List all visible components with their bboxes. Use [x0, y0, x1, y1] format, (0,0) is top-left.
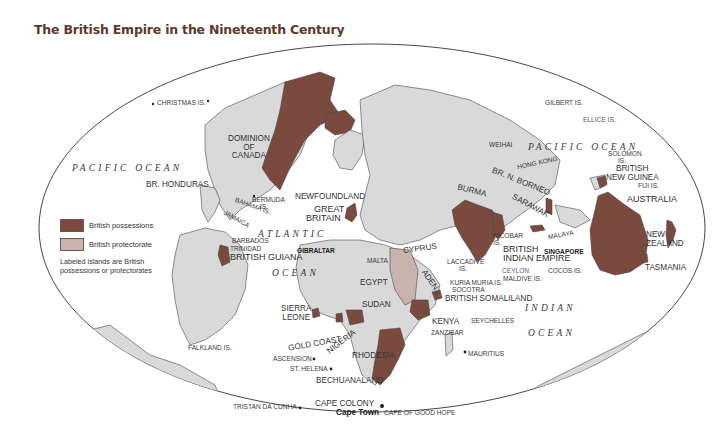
- label-canada: DOMINION OF CANADA: [228, 135, 270, 161]
- label-sierra-leone: SIERRA LEONE: [281, 305, 311, 322]
- label-maldive-is: MALDIVE IS.: [503, 276, 542, 283]
- label-gilbert-is: GILBERT IS.: [545, 100, 583, 107]
- label-cocos-is: COCOS IS.: [548, 268, 582, 275]
- label-falkland-is: FALKLAND IS.: [188, 345, 232, 352]
- label-great-britain-line2: BRITAIN: [306, 214, 344, 223]
- legend-note: Labeled islands are British possessions …: [60, 257, 180, 276]
- label-cape-of-good-hope: CAPE OF GOOD HOPE: [384, 410, 455, 417]
- label-christmas-is: CHRISTMAS IS.: [157, 100, 206, 107]
- label-british-somaliland: BRITISH SOMALILAND: [445, 295, 532, 304]
- label-british-ng-line2: NEW GUINEA: [606, 174, 659, 183]
- legend-item-protectorate: British protectorate: [60, 238, 180, 251]
- label-seychelles: SEYCHELLES: [471, 318, 514, 325]
- label-british-indian-line2: INDIAN EMPIRE: [503, 254, 571, 263]
- label-rhodesia: RHODESIA: [352, 352, 395, 361]
- ocean-label-atlantic-ocean: OCEAN: [272, 268, 319, 278]
- map-legend: British possessions British protectorate…: [60, 219, 180, 276]
- label-bechuanaland: BECHUANALAND: [316, 377, 383, 386]
- label-sudan: SUDAN: [362, 301, 391, 310]
- label-newfoundland: NEWFOUNDLAND: [295, 193, 365, 202]
- label-kenya: KENYA: [432, 318, 459, 327]
- ocean-label-indian-ocean: OCEAN: [528, 328, 575, 338]
- ocean-label-pacific-west: PACIFIC OCEAN: [72, 163, 182, 173]
- label-canada-line3: CANADA: [228, 152, 270, 161]
- label-australia: AUSTRALIA: [627, 195, 677, 204]
- possession-swatch: [60, 219, 84, 232]
- label-new-zealand-line2: ZEALAND: [646, 240, 684, 249]
- label-fiji-is: FIJI IS.: [638, 183, 659, 190]
- label-zanzibar: ZANZIBAR: [431, 330, 464, 337]
- label-laccadive-line2: IS.: [447, 266, 484, 273]
- label-british-guiana: BRITISH GUIANA: [230, 253, 303, 262]
- label-br-honduras: BR. HONDURAS: [146, 181, 209, 190]
- label-solomon: SOLOMON IS.: [608, 151, 642, 165]
- label-great-britain: GREAT BRITAIN: [306, 205, 344, 224]
- label-gibraltar: GIBRALTAR: [297, 248, 335, 255]
- label-new-zealand: NEW ZEALAND: [646, 231, 684, 248]
- label-mauritius: MAURITIUS: [468, 351, 504, 358]
- label-ceylon: CEYLON: [502, 268, 529, 275]
- label-cape-town: Cape Town: [336, 409, 379, 418]
- label-sierra-leone-line2: LEONE: [281, 314, 311, 323]
- label-tristan-da-cunha: TRISTAN DA CUNHA: [233, 404, 297, 411]
- label-malta: MALTA: [367, 258, 388, 265]
- label-socotra: SOCOTRA: [452, 287, 485, 294]
- label-st-helena: ST. HELENA: [290, 366, 328, 373]
- label-british-indian-empire: BRITISH INDIAN EMPIRE: [503, 245, 571, 264]
- protectorate-swatch: [60, 238, 84, 251]
- label-ellice-is: ELLICE IS.: [583, 117, 616, 124]
- ocean-label-indian: INDIAN: [525, 303, 576, 313]
- label-british-new-guinea: BRITISH NEW GUINEA: [606, 165, 659, 182]
- label-barbados: BARBADOS: [232, 238, 269, 245]
- label-weihai: WEIHAI: [489, 142, 512, 149]
- label-tasmania: TASMANIA: [645, 264, 686, 273]
- legend-item-possession: British possessions: [60, 219, 180, 232]
- label-egypt: EGYPT: [360, 279, 388, 288]
- gold-coast: [336, 313, 343, 322]
- label-ascension: ASCENSION: [273, 356, 312, 363]
- label-laccadive: LACCADIVE IS.: [447, 259, 484, 273]
